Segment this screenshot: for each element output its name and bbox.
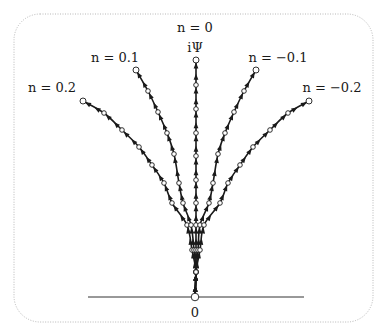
arrow-head-icon bbox=[229, 114, 234, 120]
arrow-head-icon bbox=[95, 108, 101, 113]
curve-node bbox=[194, 154, 199, 159]
arrow-head-icon bbox=[163, 124, 168, 130]
flow-curves bbox=[80, 57, 312, 297]
arrow-head-icon bbox=[238, 93, 243, 99]
curve-node bbox=[172, 152, 177, 157]
flow-curve bbox=[195, 101, 309, 297]
arrow-head-icon bbox=[224, 124, 229, 130]
curve-node bbox=[232, 110, 237, 115]
arrow-head-icon bbox=[244, 82, 249, 88]
curve-node bbox=[223, 131, 228, 136]
arrow-head-icon bbox=[219, 194, 223, 200]
flow-diagram: n = 0.2n = 0.1n = 0n = −0.1n = −0.2 iΨ 0 bbox=[0, 0, 385, 330]
arrow-head-icon bbox=[194, 135, 199, 141]
curve-node bbox=[137, 145, 142, 150]
curve-node bbox=[80, 98, 86, 104]
arrow-head-icon bbox=[217, 145, 222, 151]
curve-node bbox=[194, 131, 199, 136]
arrow-head-icon bbox=[291, 108, 297, 113]
arrow-head-icon bbox=[234, 103, 239, 109]
curve-node bbox=[102, 111, 107, 116]
arrow-head-icon bbox=[193, 275, 198, 281]
arrow-head-icon bbox=[194, 74, 199, 80]
arrow-head-icon bbox=[194, 182, 199, 188]
curve-node bbox=[133, 67, 139, 73]
arrow-head-icon bbox=[154, 103, 159, 109]
arrow-head-icon bbox=[194, 146, 199, 152]
arrow-head-icon bbox=[220, 135, 225, 141]
curve-node bbox=[165, 131, 170, 136]
arrow-head-icon bbox=[204, 205, 208, 211]
origin-label: 0 bbox=[191, 305, 199, 320]
arrow-head-icon bbox=[137, 72, 142, 78]
arrow-head-icon bbox=[194, 111, 199, 117]
arrow-head-icon bbox=[143, 82, 148, 88]
arrow-head-icon bbox=[184, 205, 189, 211]
arrow-head-icon bbox=[194, 87, 199, 93]
curve-node bbox=[216, 152, 221, 157]
curve-node bbox=[207, 201, 212, 206]
arrow-head-icon bbox=[194, 122, 199, 128]
curve-node bbox=[242, 89, 247, 94]
curve-node bbox=[194, 270, 199, 275]
curve-label: n = 0.2 bbox=[28, 80, 76, 95]
arrow-head-icon bbox=[165, 185, 169, 191]
arrow-head-icon bbox=[300, 102, 306, 107]
curve-node bbox=[238, 163, 243, 168]
curve-node bbox=[156, 110, 161, 115]
curve-node bbox=[194, 107, 199, 112]
curve-node bbox=[181, 201, 186, 206]
arrow-head-icon bbox=[194, 98, 199, 104]
arrow-head-icon bbox=[194, 215, 199, 221]
arrow-head-icon bbox=[149, 93, 154, 99]
curve-node bbox=[268, 128, 273, 133]
curve-node bbox=[251, 145, 256, 150]
arrow-head-icon bbox=[223, 185, 227, 191]
arrow-head-icon bbox=[193, 286, 198, 292]
curve-node bbox=[306, 98, 312, 104]
arrow-head-icon bbox=[200, 215, 204, 221]
arrow-head-icon bbox=[170, 145, 175, 151]
curve-label: n = −0.1 bbox=[248, 50, 307, 65]
curve-label: n = 0.1 bbox=[91, 50, 139, 65]
curve-node bbox=[193, 57, 199, 63]
arrow-head-icon bbox=[85, 102, 91, 107]
curve-node bbox=[194, 178, 199, 183]
arrow-head-icon bbox=[167, 135, 172, 141]
curve-node bbox=[218, 201, 223, 206]
arrow-head-icon bbox=[194, 205, 199, 211]
arrow-head-icon bbox=[159, 114, 164, 120]
curve-node bbox=[198, 248, 203, 253]
curve-node bbox=[146, 89, 151, 94]
curve-node bbox=[162, 181, 167, 186]
curve-node bbox=[211, 181, 216, 186]
curve-node bbox=[194, 201, 199, 206]
arrow-head-icon bbox=[194, 193, 199, 199]
flow-curve bbox=[83, 101, 196, 297]
curve-node bbox=[194, 83, 199, 88]
curve-node bbox=[177, 181, 182, 186]
arrow-head-icon bbox=[194, 169, 199, 175]
curve-node bbox=[202, 223, 207, 228]
arrow-head-icon bbox=[187, 215, 192, 221]
curve-node bbox=[286, 111, 291, 116]
curve-label: n = −0.2 bbox=[302, 80, 361, 95]
curve-node bbox=[120, 128, 125, 133]
curve-node bbox=[226, 181, 231, 186]
curve-label: n = 0 bbox=[177, 20, 213, 35]
curve-node bbox=[150, 163, 155, 168]
top-label-ipsi: iΨ bbox=[187, 40, 203, 55]
arrow-head-icon bbox=[194, 158, 199, 164]
arrow-head-icon bbox=[168, 194, 172, 200]
curve-node bbox=[170, 201, 175, 206]
curve-node bbox=[253, 67, 259, 73]
origin-node bbox=[191, 293, 199, 301]
curve-node bbox=[189, 223, 194, 228]
arrow-head-icon bbox=[250, 72, 255, 78]
